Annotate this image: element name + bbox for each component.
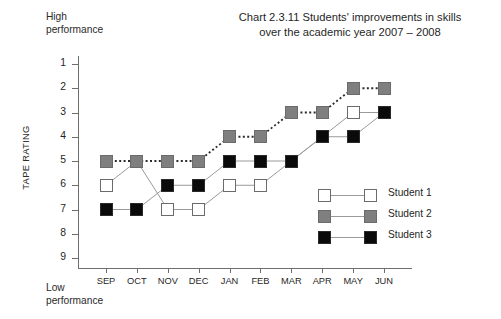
data-point-marker xyxy=(254,179,267,192)
y-axis-tick-label: 9 xyxy=(46,251,66,262)
chart-title: Chart 2.3.11 Students' improvements in s… xyxy=(205,10,495,40)
data-point-marker xyxy=(254,130,267,143)
y-axis-tick-label: 1 xyxy=(46,57,66,68)
legend-label: Student 2 xyxy=(388,208,432,219)
y-axis-tick-label: 6 xyxy=(46,178,66,189)
x-axis-tick-mark xyxy=(384,268,385,273)
data-point-marker xyxy=(347,82,360,95)
legend-connector-line xyxy=(329,237,367,238)
data-point-marker xyxy=(130,155,143,168)
series-line-2 xyxy=(106,88,384,161)
y-axis-title: TAPE RATING xyxy=(20,113,31,203)
x-axis-tick-label: MAR xyxy=(274,276,308,286)
data-point-marker xyxy=(161,155,174,168)
x-axis-tick-label: SEP xyxy=(89,276,123,286)
x-axis-tick-mark xyxy=(260,268,261,273)
x-axis-tick-label: APR xyxy=(305,276,339,286)
x-axis-tick-label: NOV xyxy=(151,276,185,286)
x-axis-tick-label: OCT xyxy=(120,276,154,286)
data-point-marker xyxy=(130,203,143,216)
y-axis-tick-label: 4 xyxy=(46,130,66,141)
y-axis-tick-label: 3 xyxy=(46,106,66,117)
legend-connector-line xyxy=(329,216,367,217)
x-axis-tick-label: JUN xyxy=(367,276,401,286)
x-axis-tick-label: MAY xyxy=(336,276,370,286)
legend-label: Student 3 xyxy=(388,229,432,240)
data-point-marker xyxy=(378,106,391,119)
data-point-marker xyxy=(316,106,329,119)
y-axis-tick-label: 7 xyxy=(46,203,66,214)
legend-swatch-left xyxy=(318,210,331,223)
x-axis-tick-mark xyxy=(353,268,354,273)
legend-swatch-right xyxy=(364,231,377,244)
legend-connector-line xyxy=(329,195,367,196)
x-axis-tick-mark xyxy=(291,268,292,273)
legend-swatch-left xyxy=(318,231,331,244)
x-axis-tick-mark xyxy=(199,268,200,273)
data-point-marker xyxy=(100,179,113,192)
x-axis-tick-mark xyxy=(322,268,323,273)
x-axis-tick-label: JAN xyxy=(213,276,247,286)
data-point-marker xyxy=(223,155,236,168)
x-axis-tick-label: FEB xyxy=(243,276,277,286)
x-axis-line xyxy=(78,268,412,269)
data-point-marker xyxy=(223,179,236,192)
high-performance-label: High performance xyxy=(46,10,103,36)
data-point-marker xyxy=(347,130,360,143)
x-axis-tick-mark xyxy=(230,268,231,273)
data-point-marker xyxy=(316,130,329,143)
data-point-marker xyxy=(223,130,236,143)
data-point-marker xyxy=(192,179,205,192)
chart-container: Chart 2.3.11 Students' improvements in s… xyxy=(0,0,501,319)
legend-marker-sample xyxy=(318,231,378,245)
data-point-marker xyxy=(378,82,391,95)
data-point-marker xyxy=(161,179,174,192)
data-point-marker xyxy=(254,155,267,168)
x-axis-tick-mark xyxy=(106,268,107,273)
legend-marker-sample xyxy=(318,189,378,203)
y-axis-tick-label: 2 xyxy=(46,81,66,92)
data-point-marker xyxy=(100,203,113,216)
legend-label: Student 1 xyxy=(388,187,432,198)
data-point-marker xyxy=(100,155,113,168)
data-point-marker xyxy=(161,203,174,216)
data-point-marker xyxy=(192,155,205,168)
data-point-marker xyxy=(192,203,205,216)
legend-swatch-right xyxy=(364,210,377,223)
legend-marker-sample xyxy=(318,210,378,224)
legend-swatch-right xyxy=(364,189,377,202)
y-axis-tick-label: 8 xyxy=(46,227,66,238)
y-axis-tick-label: 5 xyxy=(46,154,66,165)
data-point-marker xyxy=(285,155,298,168)
data-point-marker xyxy=(285,106,298,119)
x-axis-tick-mark xyxy=(137,268,138,273)
x-axis-tick-mark xyxy=(168,268,169,273)
data-point-marker xyxy=(347,106,360,119)
x-axis-tick-label: DEC xyxy=(182,276,216,286)
legend-swatch-left xyxy=(318,189,331,202)
